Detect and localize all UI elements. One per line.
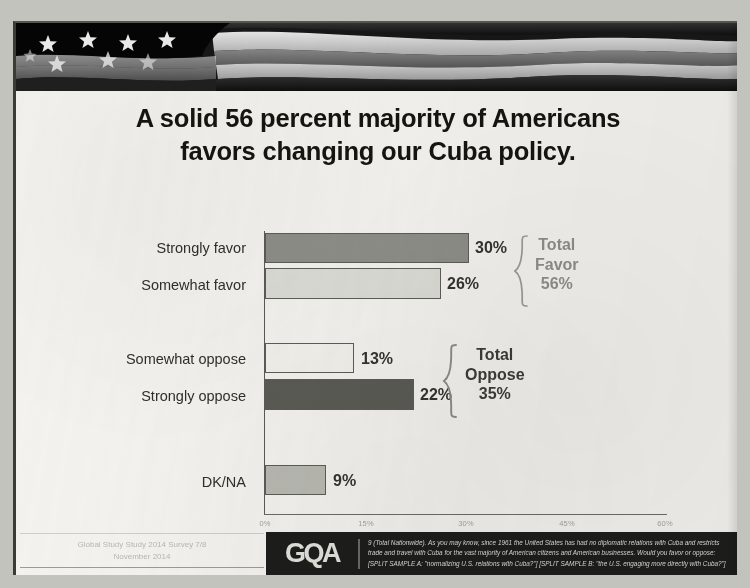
presentation-slide: A solid 56 percent majority of Americans… — [13, 21, 737, 575]
footnote-line-2: trade and travel with Cuba for the vast … — [368, 548, 726, 558]
gqa-logo: GQA — [266, 538, 358, 569]
total-oppose-line2: Oppose — [465, 365, 525, 385]
footer-left-line2: November 2014 — [20, 551, 264, 563]
bar-value-dkna: 9% — [333, 472, 356, 490]
bar-label-somewhat-oppose: Somewhat oppose — [96, 351, 246, 367]
american-flag-banner-icon — [16, 23, 737, 91]
total-oppose-line3: 35% — [465, 384, 525, 404]
bar-dkna — [265, 465, 326, 495]
footer-left-line1: Global Study Study 2014 Survey 7/8 — [20, 539, 264, 551]
total-oppose-line1: Total — [465, 345, 525, 365]
bar-strongly-oppose — [265, 379, 414, 410]
survey-question-footnote: 9 (Total Nationwide). As you may know, s… — [368, 538, 732, 569]
logo-divider — [358, 539, 360, 569]
scanned-page: A solid 56 percent majority of Americans… — [0, 0, 750, 588]
bar-label-dkna: DK/NA — [96, 474, 246, 490]
footer-dark-band: GQA 9 (Total Nationwide). As you may kno… — [266, 532, 737, 575]
slide-page-number: 7 — [732, 548, 737, 560]
footer-rule-bottom — [20, 567, 264, 568]
bar-label-strongly-oppose: Strongly oppose — [96, 388, 246, 404]
total-favor-line2: Favor — [535, 255, 579, 275]
footer-rule-top — [20, 533, 264, 534]
footnote-line-1: 9 (Total Nationwide). As you may know, s… — [368, 538, 726, 548]
title-line-1: A solid 56 percent majority of Americans — [16, 102, 737, 135]
bar-value-strongly-favor: 30% — [475, 239, 507, 257]
bar-label-strongly-favor: Strongly favor — [96, 240, 246, 256]
total-favor-line1: Total — [535, 235, 579, 255]
footer-left-note: Global Study Study 2014 Survey 7/8 Novem… — [20, 533, 264, 575]
bar-somewhat-oppose — [265, 343, 354, 373]
page-title: A solid 56 percent majority of Americans… — [16, 102, 737, 168]
total-favor-annotation: Total Favor 56% — [535, 235, 579, 294]
bar-label-somewhat-favor: Somewhat favor — [96, 277, 246, 293]
bar-strongly-favor — [265, 233, 469, 263]
slide-footer: Global Study Study 2014 Survey 7/8 Novem… — [16, 527, 737, 575]
bar-somewhat-favor — [265, 268, 441, 299]
total-favor-line3: 56% — [535, 274, 579, 294]
chart-x-axis — [264, 514, 667, 515]
total-oppose-annotation: Total Oppose 35% — [465, 345, 525, 404]
total-favor-brace-icon — [514, 235, 532, 307]
title-line-2: favors changing our Cuba policy. — [16, 135, 737, 168]
footnote-line-3: [SPLIT SAMPLE A: "normalizing U.S. relat… — [368, 559, 726, 569]
horizontal-bar-chart: Strongly favor Somewhat favor Somewhat o… — [16, 209, 737, 539]
bar-value-somewhat-favor: 26% — [447, 275, 479, 293]
total-oppose-brace-icon — [443, 344, 461, 418]
bar-value-somewhat-oppose: 13% — [361, 350, 393, 368]
